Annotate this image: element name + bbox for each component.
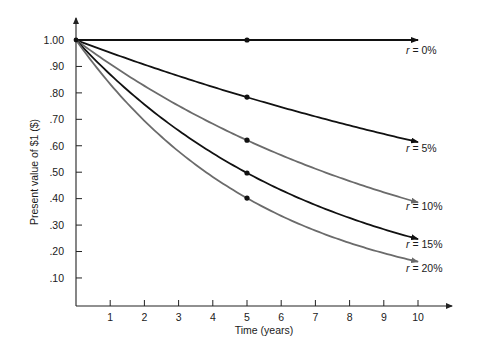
origin-dot — [74, 38, 79, 43]
x-axis-ticks: 12345678910 — [107, 300, 424, 323]
label-r-10: r = 10% — [406, 200, 442, 212]
x-tick-label: 8 — [347, 311, 353, 323]
label-r-15: r = 15% — [406, 238, 442, 250]
marker-dot — [244, 95, 249, 100]
marker-dot — [244, 170, 249, 175]
present-value-chart: 1.00.90.80.70.60.50.40.30.20.10 12345678… — [0, 0, 484, 358]
label-r-5: r = 5% — [406, 142, 437, 154]
marker-dot — [244, 138, 249, 143]
x-tick-label: 6 — [278, 311, 284, 323]
y-tick-label: .90 — [49, 60, 64, 72]
x-tick-label: 7 — [312, 311, 318, 323]
x-tick-label: 5 — [244, 311, 250, 323]
y-tick-label: .70 — [49, 113, 64, 125]
x-tick-label: 9 — [381, 311, 387, 323]
series-line-10 — [76, 40, 418, 202]
y-tick-label: 1.00 — [44, 34, 65, 46]
y-tick-label: .40 — [49, 192, 64, 204]
y-tick-label: .50 — [49, 166, 64, 178]
marker-dot — [244, 37, 249, 42]
x-tick-label: 1 — [107, 311, 113, 323]
series-line-20 — [76, 40, 418, 262]
y-axis-title: Present value of $1 ($) — [28, 119, 40, 225]
y-tick-label: .80 — [49, 87, 64, 99]
y-tick-label: .10 — [49, 272, 64, 284]
x-tick-label: 4 — [210, 311, 216, 323]
label-r-20: r = 20% — [406, 262, 442, 274]
marker-dot — [244, 196, 249, 201]
x-tick-label: 3 — [176, 311, 182, 323]
y-tick-label: .20 — [49, 245, 64, 257]
y-tick-label: .60 — [49, 140, 64, 152]
y-tick-label: .30 — [49, 219, 64, 231]
x-axis-title: Time (years) — [235, 324, 294, 336]
label-r-0: r = 0% — [406, 44, 437, 56]
series-lines — [76, 40, 418, 262]
x-tick-label: 10 — [412, 311, 424, 323]
x-tick-label: 2 — [141, 311, 147, 323]
